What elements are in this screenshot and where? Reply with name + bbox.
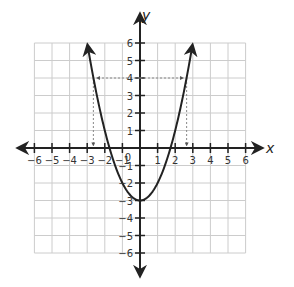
y-tick-label: −2 — [118, 178, 133, 189]
parabola-graph: −6−5−4−3−2−1123456−6−5−4−3−2−11234560xy — [0, 0, 294, 287]
x-tick-label: 4 — [207, 155, 213, 166]
x-tick-label: −2 — [97, 155, 112, 166]
y-tick-label: −6 — [118, 248, 133, 259]
y-tick-label: −4 — [118, 213, 133, 224]
tick-labels: −6−5−4−3−2−1123456−6−5−4−3−2−11234560xy — [27, 7, 275, 259]
y-tick-label: 6 — [127, 38, 133, 49]
x-tick-label: 3 — [190, 155, 196, 166]
y-tick-label: 5 — [127, 56, 133, 67]
x-tick-label: 2 — [172, 155, 178, 166]
x-tick-label: 6 — [242, 155, 248, 166]
y-axis-label: y — [141, 7, 151, 23]
x-tick-label: −6 — [27, 155, 42, 166]
x-axis-label: x — [265, 140, 275, 156]
x-tick-label: −5 — [45, 155, 60, 166]
y-tick-label: −5 — [118, 231, 133, 242]
x-tick-label: 5 — [225, 155, 231, 166]
axes — [18, 14, 262, 276]
y-tick-label: 2 — [127, 108, 133, 119]
origin-label: 0 — [125, 152, 131, 163]
y-tick-label: −3 — [118, 196, 133, 207]
x-tick-label: −3 — [80, 155, 95, 166]
x-tick-label: −4 — [62, 155, 77, 166]
y-tick-label: 4 — [127, 73, 133, 84]
y-tick-label: 1 — [127, 126, 133, 137]
y-tick-label: 3 — [127, 91, 133, 102]
x-tick-label: 1 — [154, 155, 160, 166]
